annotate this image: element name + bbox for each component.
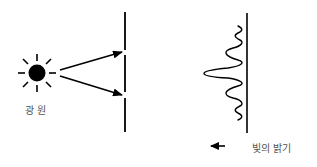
ray-upper <box>60 52 122 70</box>
left-arrow-icon <box>210 142 225 150</box>
light-source-label: 광 원 <box>25 102 46 117</box>
brightness-label: 빛의 밝기 <box>252 140 291 155</box>
ray-lower <box>60 76 122 95</box>
sun-icon <box>18 54 56 92</box>
light-rays <box>60 52 122 95</box>
interference-pattern <box>204 26 242 120</box>
